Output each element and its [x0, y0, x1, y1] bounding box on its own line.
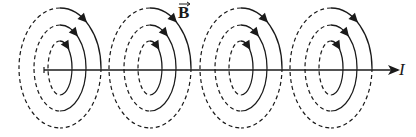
field-loop-set — [200, 8, 282, 128]
magnetic-field-diagram: B I — [0, 0, 416, 137]
field-line-back-dashed — [290, 8, 331, 128]
current-wire — [44, 67, 398, 73]
field-line-back-dashed — [124, 25, 150, 111]
field-line-back-dashed — [229, 41, 241, 95]
field-line-back-dashed — [48, 41, 60, 95]
field-line-front-lower — [241, 68, 282, 128]
field-vector-label: B — [178, 4, 189, 21]
field-line-front-lower — [60, 68, 101, 128]
field-line-back-dashed — [215, 25, 241, 111]
field-line-front-lower — [150, 68, 176, 111]
field-line-front-lower — [331, 68, 372, 128]
field-line-front-lower — [60, 68, 86, 111]
current-label: I — [399, 61, 405, 78]
field-line-back-dashed — [19, 8, 60, 128]
field-line-back-dashed — [109, 8, 150, 128]
field-line-front-lower — [331, 68, 343, 95]
field-line-front-lower — [60, 68, 72, 95]
field-line-front-lower — [241, 68, 267, 111]
field-loop-sets — [19, 8, 372, 128]
field-line-front-lower — [241, 68, 253, 95]
field-loop-set — [290, 8, 372, 128]
field-line-back-dashed — [200, 8, 241, 128]
field-line-front-lower — [150, 68, 162, 95]
vector-arrow-icon — [178, 1, 191, 7]
field-loop-set — [19, 8, 101, 128]
field-loop-set — [109, 8, 191, 128]
field-lines-canvas — [0, 0, 416, 137]
field-line-back-dashed — [305, 25, 331, 111]
field-line-back-dashed — [34, 25, 60, 111]
field-line-back-dashed — [138, 41, 150, 95]
field-line-back-dashed — [319, 41, 331, 95]
field-line-front-lower — [150, 68, 191, 128]
field-line-front-lower — [331, 68, 357, 111]
